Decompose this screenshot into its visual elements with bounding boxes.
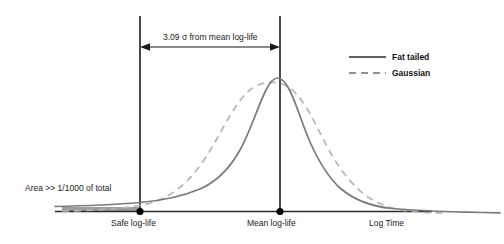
safe-log-life-marker xyxy=(136,208,143,215)
fat-tailed-curve xyxy=(55,78,500,213)
mean-log-life-marker xyxy=(276,208,283,215)
x-axis-label-mean-log-life: Mean log-life xyxy=(247,219,296,228)
legend-item-gaussian: Gaussian xyxy=(392,69,430,78)
sigma-arrowhead-left xyxy=(140,43,150,51)
x-axis-label-safe-log-life: Safe log-life xyxy=(111,219,156,228)
gaussian-curve xyxy=(62,82,446,213)
sigma-arrowhead-right xyxy=(270,43,280,51)
legend-item-fat-tailed: Fat tailed xyxy=(392,53,429,62)
tail-area-annotation: Area >> 1/1000 of total xyxy=(25,184,111,193)
x-axis-title-log-time: Log Time xyxy=(369,219,404,228)
sigma-span-annotation: 3.09 σ from mean log-life xyxy=(163,33,258,42)
chart-container: 3.09 σ from mean log-life Area >> 1/1000… xyxy=(0,0,504,244)
